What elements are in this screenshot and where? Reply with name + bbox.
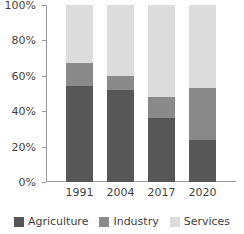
bar-group-2004[interactable]: 2004 xyxy=(107,5,134,182)
bar-segment-services[interactable] xyxy=(107,5,134,76)
bar-segment-services[interactable] xyxy=(66,5,93,63)
bar-segment-industry[interactable] xyxy=(148,97,175,118)
y-axis-label-0: 0% xyxy=(19,177,36,188)
bar-segment-industry[interactable] xyxy=(66,63,93,86)
bar-segment-agriculture[interactable] xyxy=(107,90,134,182)
y-axis-label-80: 80% xyxy=(12,35,36,46)
bar-segment-industry[interactable] xyxy=(107,76,134,90)
y-axis-label-60: 60% xyxy=(12,70,36,81)
bar-group-1991[interactable]: 1991 xyxy=(66,5,93,182)
bars-layer: 1991 2004 2017 2020 xyxy=(46,5,236,182)
square-swatch-icon xyxy=(99,217,109,227)
stacked-bar-chart: 100% 80% 60% 40% 20% 0% 1991 xyxy=(0,0,244,234)
bar-segment-agriculture[interactable] xyxy=(66,86,93,182)
square-swatch-icon xyxy=(170,217,180,227)
legend-item-services[interactable]: Services xyxy=(170,216,230,228)
y-axis-label-20: 20% xyxy=(12,141,36,152)
legend-item-industry[interactable]: Industry xyxy=(99,216,158,228)
bar-segment-services[interactable] xyxy=(189,5,216,88)
square-swatch-icon xyxy=(14,217,24,227)
bar-segment-agriculture[interactable] xyxy=(189,140,216,182)
bar-group-2020[interactable]: 2020 xyxy=(189,5,216,182)
y-axis-label-100: 100% xyxy=(5,0,36,11)
x-axis-label-2020: 2020 xyxy=(189,187,217,199)
legend-label-agriculture: Agriculture xyxy=(28,216,89,228)
bar-segment-agriculture[interactable] xyxy=(148,118,175,182)
x-axis-label-1991: 1991 xyxy=(66,187,94,199)
plot-area: 100% 80% 60% 40% 20% 0% 1991 xyxy=(46,5,236,182)
bar-segment-services[interactable] xyxy=(148,5,175,97)
bar-segment-industry[interactable] xyxy=(189,88,216,139)
chart-legend: Agriculture Industry Services xyxy=(0,216,244,228)
x-axis-label-2017: 2017 xyxy=(148,187,176,199)
x-axis-label-2004: 2004 xyxy=(107,187,135,199)
legend-label-services: Services xyxy=(184,216,230,228)
y-tick-0: 0% xyxy=(42,182,46,183)
bar-group-2017[interactable]: 2017 xyxy=(148,5,175,182)
y-axis-label-40: 40% xyxy=(12,106,36,117)
legend-label-industry: Industry xyxy=(113,216,158,228)
legend-item-agriculture[interactable]: Agriculture xyxy=(14,216,89,228)
